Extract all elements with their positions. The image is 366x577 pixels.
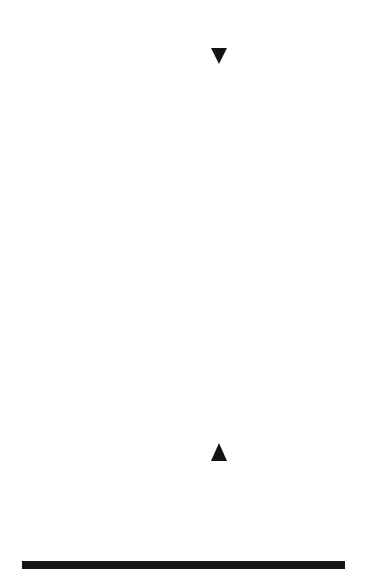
bottom-rule <box>22 561 345 569</box>
chart-figure <box>0 0 366 577</box>
income-disparity-chart <box>0 0 366 577</box>
chart-background <box>0 0 366 577</box>
